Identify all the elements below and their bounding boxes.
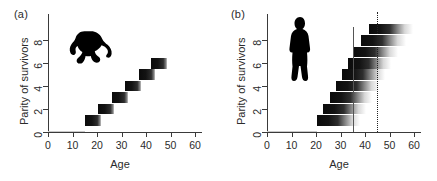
parity-bar xyxy=(151,58,167,69)
x-tick xyxy=(195,133,196,137)
parity-bar xyxy=(348,58,391,69)
y-axis-line xyxy=(267,14,268,133)
x-tick xyxy=(146,133,147,137)
x-tick-label: 20 xyxy=(304,139,328,151)
x-tick xyxy=(267,133,268,137)
human-silhouette-icon xyxy=(285,16,315,82)
x-tick-label: 50 xyxy=(378,139,402,151)
parity-bar xyxy=(369,24,413,35)
x-tick-label: 30 xyxy=(329,139,353,151)
x-tick-label: 20 xyxy=(85,139,109,151)
panel-b: (b) Parity of survivors Age 010203040506… xyxy=(219,0,437,181)
parity-bar xyxy=(112,92,128,103)
x-tick-label: 60 xyxy=(402,139,426,151)
y-tick-label: 6 xyxy=(251,63,263,77)
y-tick-label: 4 xyxy=(32,86,44,100)
panel-b-y-axis-label: Parity of survivors xyxy=(235,38,247,125)
x-tick xyxy=(365,133,366,137)
panel-a-x-axis-label: Age xyxy=(45,158,195,170)
parity-bar xyxy=(336,81,379,92)
menopause-line xyxy=(377,12,378,132)
x-tick xyxy=(122,133,123,137)
panel-a-label: (a) xyxy=(14,8,28,20)
panel-b-x-axis-label: Age xyxy=(264,158,414,170)
y-axis-line xyxy=(48,14,49,133)
x-tick xyxy=(316,133,317,137)
x-tick xyxy=(73,133,74,137)
panel-a: (a) Parity of survivors Age 010203040506… xyxy=(0,0,218,181)
baseline-parity-zero xyxy=(267,131,317,132)
x-tick-label: 10 xyxy=(61,139,85,151)
parity-bar xyxy=(85,115,101,126)
parity-bar xyxy=(323,104,366,115)
x-tick-label: 50 xyxy=(159,139,183,151)
y-tick-label: 0 xyxy=(32,132,44,146)
x-tick xyxy=(171,133,172,137)
x-tick xyxy=(97,133,98,137)
x-axis-line xyxy=(48,132,202,133)
panel-b-label: (b) xyxy=(231,8,245,20)
x-tick xyxy=(48,133,49,137)
y-tick-label: 4 xyxy=(251,86,263,100)
parity-bar xyxy=(330,92,373,103)
chimpanzee-silhouette-icon xyxy=(68,28,112,68)
x-tick-label: 10 xyxy=(280,139,304,151)
y-tick-label: 6 xyxy=(32,63,44,77)
x-tick xyxy=(390,133,391,137)
parity-bar xyxy=(125,81,141,92)
baseline-parity-zero xyxy=(48,131,85,132)
parity-bar xyxy=(98,104,114,115)
x-tick-label: 40 xyxy=(353,139,377,151)
y-tick-label: 0 xyxy=(251,132,263,146)
x-tick-label: 40 xyxy=(134,139,158,151)
parity-bar xyxy=(361,35,405,46)
y-tick-label: 8 xyxy=(251,40,263,54)
x-tick xyxy=(292,133,293,137)
x-tick-label: 30 xyxy=(110,139,134,151)
y-tick-label: 2 xyxy=(251,109,263,123)
end-of-reproduction-line xyxy=(353,27,354,132)
figure-panels: (a) Parity of survivors Age 010203040506… xyxy=(0,0,437,181)
parity-bar xyxy=(354,47,398,58)
x-axis-line xyxy=(267,132,421,133)
x-tick xyxy=(414,133,415,137)
panel-a-y-axis-label: Parity of survivors xyxy=(18,38,30,125)
x-tick xyxy=(341,133,342,137)
x-tick-label: 60 xyxy=(183,139,207,151)
parity-bar xyxy=(139,69,155,80)
y-tick-label: 8 xyxy=(32,40,44,54)
y-tick-label: 2 xyxy=(32,109,44,123)
